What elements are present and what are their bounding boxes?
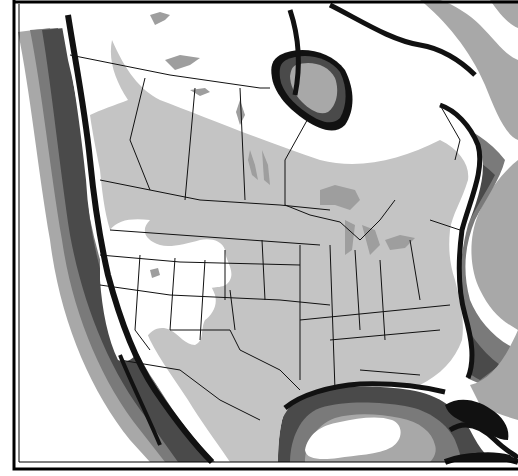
- map-container: North America range map: [0, 0, 518, 476]
- range-map: [0, 0, 518, 476]
